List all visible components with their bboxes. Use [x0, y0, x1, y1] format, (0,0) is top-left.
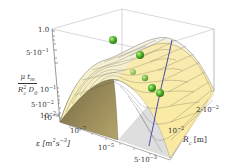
epsilon-axis-title: ε [m2s−3] [36, 138, 70, 147]
z-axis-title-denominator-tail: D [26, 87, 34, 95]
z-tick-0-1: 10−1 [40, 85, 56, 94]
rc-title-unit: [m] [191, 135, 206, 144]
eps-tick-exponent: −5 [107, 142, 114, 148]
z-tick-label: 10 [40, 86, 49, 94]
z-tick-1: 1.0 [38, 27, 49, 34]
rc-tick-exponent: −2 [177, 125, 184, 131]
z-tick-0-5: 5·10−1 [26, 48, 49, 57]
z-tick-exponent: −2 [47, 99, 54, 105]
eps-tick-label: 10 [43, 114, 52, 122]
z-tick-label: 5·10 [31, 101, 47, 109]
eps-tick-1e-9: 10−9 [43, 113, 59, 122]
eps-tick-label: 10 [70, 127, 79, 135]
z-axis-title: μ tm R2c D0 [18, 74, 37, 96]
eps-tick-1e-5: 10−5 [98, 143, 114, 152]
eps-tick-1e-7: 10−7 [70, 126, 86, 135]
eps-tick-exponent: −9 [52, 112, 59, 118]
rc-tick-exponent: −3 [150, 154, 157, 160]
rc-tick-label: 2·10 [196, 106, 212, 114]
eps-tick-exponent: −7 [79, 125, 86, 131]
rc-tick-label: 10 [168, 127, 177, 135]
rc-tick-exponent: −2 [212, 104, 219, 110]
eps-title-sup: −3 [60, 137, 67, 143]
data-point [156, 89, 164, 97]
z-tick-label: 1.0 [38, 26, 49, 34]
eps-tick-label: 10 [98, 144, 107, 152]
data-point [130, 69, 136, 75]
rc-tick-2e-2: 2·10−2 [196, 105, 219, 114]
data-point [109, 36, 117, 44]
z-tick-label: 5·10 [26, 49, 42, 57]
z-axis-title-denominator-tail-sub: 0 [34, 90, 37, 96]
rc-axis-title: Rc [m] [183, 136, 207, 146]
z-tick-exponent: −1 [42, 47, 49, 53]
eps-title-part: ] [67, 139, 70, 148]
eps-title-part: ε [m [36, 139, 52, 148]
z-tick-0-05: 5·10−2 [31, 100, 54, 109]
data-point [136, 51, 144, 59]
z-tick-exponent: −1 [49, 84, 56, 90]
data-point [142, 75, 148, 81]
rc-tick-5e-3: 5·10−3 [134, 155, 157, 164]
data-point [148, 84, 156, 92]
z-axis-title-numerator-sub: m [30, 76, 35, 82]
z-axis-title-numerator: μ t [20, 73, 30, 81]
rc-tick-1e-2: 10−2 [168, 126, 184, 135]
rc-tick-label: 5·10 [134, 156, 150, 164]
